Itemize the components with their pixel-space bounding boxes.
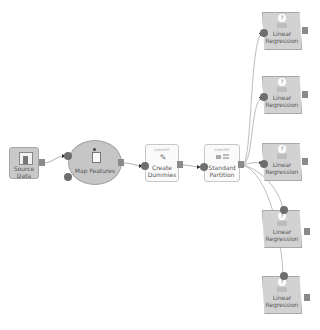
node-linear-regression-5[interactable]: ? Linear Regression (262, 276, 302, 314)
node-label-line2: Partition (205, 171, 239, 178)
node-label-line2: Regression (262, 37, 302, 44)
node-label-line2: Regression (262, 168, 302, 175)
output-port[interactable] (302, 158, 308, 165)
node-linear-regression-2[interactable]: ? Linear Regression (262, 76, 302, 114)
input-port[interactable] (64, 173, 72, 181)
node-label-line1: Source (10, 165, 38, 172)
node-category: CONVERT (146, 148, 178, 152)
output-port[interactable] (304, 294, 310, 301)
node-label-line2: Regression (262, 235, 302, 242)
node-label-line1: Create (146, 164, 178, 171)
node-linear-regression-3[interactable]: ? Linear Regression (262, 143, 302, 181)
node-label-line1: Linear (262, 94, 302, 101)
regression-icon (277, 287, 287, 292)
node-source-data[interactable]: Source Data (9, 147, 39, 179)
input-port[interactable] (64, 152, 72, 160)
output-port[interactable] (238, 161, 244, 168)
input-port[interactable] (280, 206, 288, 214)
workflow-canvas[interactable]: Source Data Map Features CONVERT ✎ Creat… (0, 0, 320, 330)
input-port[interactable] (200, 163, 208, 171)
node-linear-regression-4[interactable]: ? Linear Regression (262, 210, 302, 248)
regression-icon (277, 87, 287, 92)
output-port[interactable] (39, 159, 45, 166)
output-port[interactable] (302, 91, 308, 98)
node-label-line2: Regression (262, 101, 302, 108)
output-port[interactable] (304, 228, 310, 235)
node-category: CONVERT (205, 148, 239, 152)
node-linear-regression-1[interactable]: ? Linear Regression (262, 12, 302, 50)
node-label-line1: Linear (262, 30, 302, 37)
input-port[interactable] (141, 162, 149, 170)
node-label-line2: Data (10, 172, 38, 179)
node-label-line1: Linear (262, 228, 302, 235)
help-badge-icon: ? (278, 78, 286, 86)
input-port[interactable] (260, 29, 268, 37)
node-label-line1: Standard (205, 164, 239, 171)
output-port[interactable] (177, 161, 183, 168)
node-create-dummies[interactable]: CONVERT ✎ Create Dummies (145, 144, 179, 182)
node-standard-partition[interactable]: CONVERT Standard Partition (204, 144, 240, 182)
node-label: Map Features (69, 167, 121, 174)
partition-icon (216, 154, 230, 160)
node-label-line2: Dummies (146, 171, 178, 178)
input-port[interactable] (280, 272, 288, 280)
node-label-line1: Linear (262, 161, 302, 168)
node-label-line2: Regression (262, 301, 302, 308)
input-port[interactable] (260, 93, 268, 101)
help-badge-icon: ? (278, 145, 286, 153)
pencil-icon: ✎ (158, 154, 168, 162)
regression-icon (277, 23, 287, 28)
help-badge-icon: ? (278, 14, 286, 22)
node-map-features[interactable]: Map Features (68, 140, 122, 185)
regression-icon (277, 221, 287, 226)
regression-icon (277, 154, 287, 159)
database-icon (19, 152, 33, 165)
person-map-icon (91, 148, 101, 162)
node-label-line1: Linear (262, 294, 302, 301)
input-port[interactable] (260, 160, 268, 168)
output-port[interactable] (118, 159, 124, 166)
output-port[interactable] (302, 27, 308, 34)
